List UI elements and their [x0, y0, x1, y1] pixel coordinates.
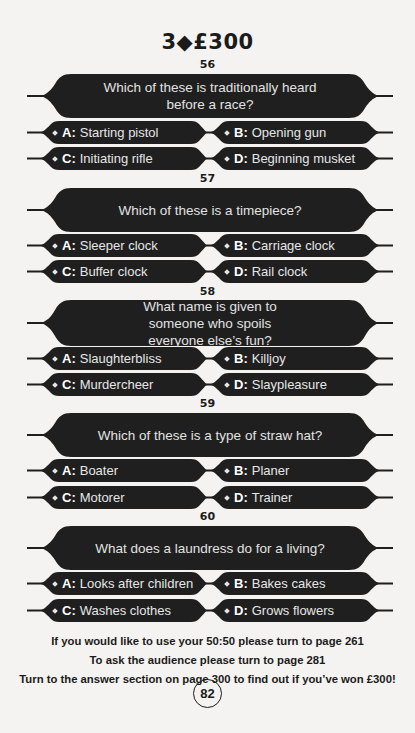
question-banner: Which of these is a timepiece?	[27, 188, 393, 232]
answer-letter: C:	[62, 490, 76, 505]
answer-text: Slaughterbliss	[80, 351, 162, 366]
answer-letter: A:	[62, 351, 76, 366]
answer-text: Buffer clock	[80, 264, 148, 279]
answer-a[interactable]: A:Looks after children	[53, 572, 193, 595]
answer-text: Looks after children	[80, 576, 193, 591]
question-text: Which of these is a type of straw hat?	[87, 413, 333, 457]
answer-row: C:Washes clothes D:Grows flowers	[27, 599, 393, 622]
answer-b[interactable]: B:Killjoy	[225, 347, 286, 370]
diamond-bullet-icon	[52, 269, 58, 275]
answer-letter: B:	[234, 351, 248, 366]
diamond-bullet-icon	[224, 495, 230, 501]
answer-text: Washes clothes	[80, 603, 171, 618]
diamond-bullet-icon	[52, 608, 58, 614]
answer-letter: B:	[234, 238, 248, 253]
question-text: Which of these is a timepiece?	[87, 188, 333, 232]
answer-d[interactable]: D:Trainer	[225, 486, 292, 509]
lifeline-5050-instruction: If you would like to use your 50:50 plea…	[0, 632, 415, 651]
answer-row: A:Boater B:Planer	[27, 459, 393, 482]
answer-text: Bakes cakes	[252, 576, 326, 591]
answer-letter: A:	[62, 125, 76, 140]
answer-text: Rail clock	[252, 264, 308, 279]
answer-c[interactable]: C:Washes clothes	[53, 599, 171, 622]
answer-letter: D:	[234, 264, 248, 279]
answer-d[interactable]: D:Beginning musket	[225, 147, 355, 170]
answer-a[interactable]: A:Slaughterbliss	[53, 347, 161, 370]
answer-a[interactable]: A:Sleeper clock	[53, 234, 158, 257]
answer-letter: B:	[234, 463, 248, 478]
answer-letter: C:	[62, 264, 76, 279]
quiz-page: 3◆£300 56 Which of these is traditionall…	[0, 0, 415, 733]
answer-b[interactable]: B:Bakes cakes	[225, 572, 325, 595]
diamond-bullet-icon	[52, 468, 58, 474]
question-banner: Which of these is a type of straw hat?	[27, 413, 393, 457]
diamond-bullet-icon	[224, 468, 230, 474]
answer-letter: C:	[62, 377, 76, 392]
diamond-bullet-icon	[224, 130, 230, 136]
diamond-bullet-icon	[52, 156, 58, 162]
answer-row: C:Buffer clock D:Rail clock	[27, 260, 393, 283]
diamond-bullet-icon	[52, 581, 58, 587]
answer-row: C:Initiating rifle D:Beginning musket	[27, 147, 393, 170]
round-title: 3◆£300	[0, 30, 415, 54]
page-number: 82	[193, 679, 222, 708]
answer-text: Trainer	[252, 490, 293, 505]
diamond-bullet-icon	[224, 581, 230, 587]
diamond-bullet-icon	[52, 130, 58, 136]
answer-text: Slaypleasure	[252, 377, 327, 392]
diamond-bullet-icon	[224, 356, 230, 362]
question-banner: Which of these is traditionally heard be…	[27, 74, 393, 118]
answer-a[interactable]: A:Starting pistol	[53, 121, 158, 144]
answer-letter: D:	[234, 603, 248, 618]
answer-row: A:Sleeper clock B:Carriage clock	[27, 234, 393, 257]
answer-c[interactable]: C:Murdercheer	[53, 373, 153, 396]
question-number: 56	[0, 58, 415, 71]
answer-text: Beginning musket	[252, 151, 355, 166]
answer-d[interactable]: D:Grows flowers	[225, 599, 334, 622]
answer-letter: A:	[62, 238, 76, 253]
question-banner: What does a laundress do for a living?	[27, 526, 393, 570]
question-number: 60	[0, 510, 415, 523]
answer-text: Murdercheer	[80, 377, 154, 392]
answer-text: Opening gun	[252, 125, 326, 140]
answer-row: A:Looks after children B:Bakes cakes	[27, 572, 393, 595]
answer-letter: D:	[234, 151, 248, 166]
answer-text: Initiating rifle	[80, 151, 153, 166]
answer-a[interactable]: A:Boater	[53, 459, 118, 482]
answer-c[interactable]: C:Buffer clock	[53, 260, 147, 283]
answer-text: Killjoy	[252, 351, 286, 366]
diamond-bullet-icon	[52, 243, 58, 249]
answer-b[interactable]: B:Opening gun	[225, 121, 326, 144]
diamond-bullet-icon	[224, 382, 230, 388]
answer-letter: A:	[62, 463, 76, 478]
answer-b[interactable]: B:Carriage clock	[225, 234, 335, 257]
diamond-bullet-icon	[224, 156, 230, 162]
answer-row: A:Slaughterbliss B:Killjoy	[27, 347, 393, 370]
question-number: 59	[0, 397, 415, 410]
answer-text: Boater	[80, 463, 118, 478]
diamond-bullet-icon	[52, 495, 58, 501]
answer-c[interactable]: C:Initiating rifle	[53, 147, 153, 170]
answer-text: Sleeper clock	[80, 238, 158, 253]
answer-d[interactable]: D:Slaypleasure	[225, 373, 327, 396]
answer-b[interactable]: B:Planer	[225, 459, 289, 482]
question-banner: What name is given to someone who spoils…	[27, 300, 393, 346]
answer-d[interactable]: D:Rail clock	[225, 260, 307, 283]
answer-row: C:Motorer D:Trainer	[27, 486, 393, 509]
question-text: What does a laundress do for a living?	[87, 526, 333, 570]
question-text: Which of these is traditionally heard be…	[87, 74, 333, 118]
answer-letter: C:	[62, 603, 76, 618]
answer-text: Planer	[252, 463, 290, 478]
diamond-bullet-icon	[52, 356, 58, 362]
answer-text: Starting pistol	[80, 125, 159, 140]
answer-letter: B:	[234, 125, 248, 140]
question-number: 57	[0, 172, 415, 185]
question-number: 58	[0, 285, 415, 298]
answer-letter: A:	[62, 576, 76, 591]
answer-c[interactable]: C:Motorer	[53, 486, 125, 509]
diamond-bullet-icon	[224, 608, 230, 614]
answer-text: Carriage clock	[252, 238, 335, 253]
answer-letter: C:	[62, 151, 76, 166]
diamond-bullet-icon	[52, 382, 58, 388]
answer-letter: D:	[234, 490, 248, 505]
